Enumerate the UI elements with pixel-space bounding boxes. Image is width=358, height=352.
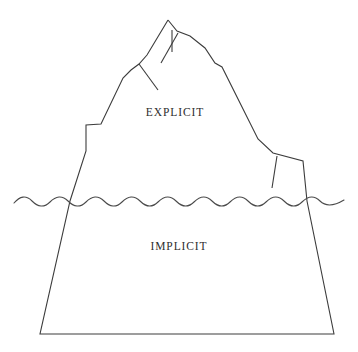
- right-ledge-crack-line: [272, 156, 277, 188]
- explicit-zone-label: EXPLICIT: [146, 106, 204, 118]
- water-line: [14, 197, 344, 206]
- iceberg-diagram: EXPLICIT IMPLICIT: [0, 0, 358, 352]
- iceberg-outline-path: [40, 20, 334, 334]
- iceberg-illustration: [0, 0, 358, 352]
- implicit-zone-label: IMPLICIT: [150, 240, 207, 252]
- left-ridge-crack-line: [139, 64, 158, 90]
- upper-ridge-crack-line: [161, 33, 178, 63]
